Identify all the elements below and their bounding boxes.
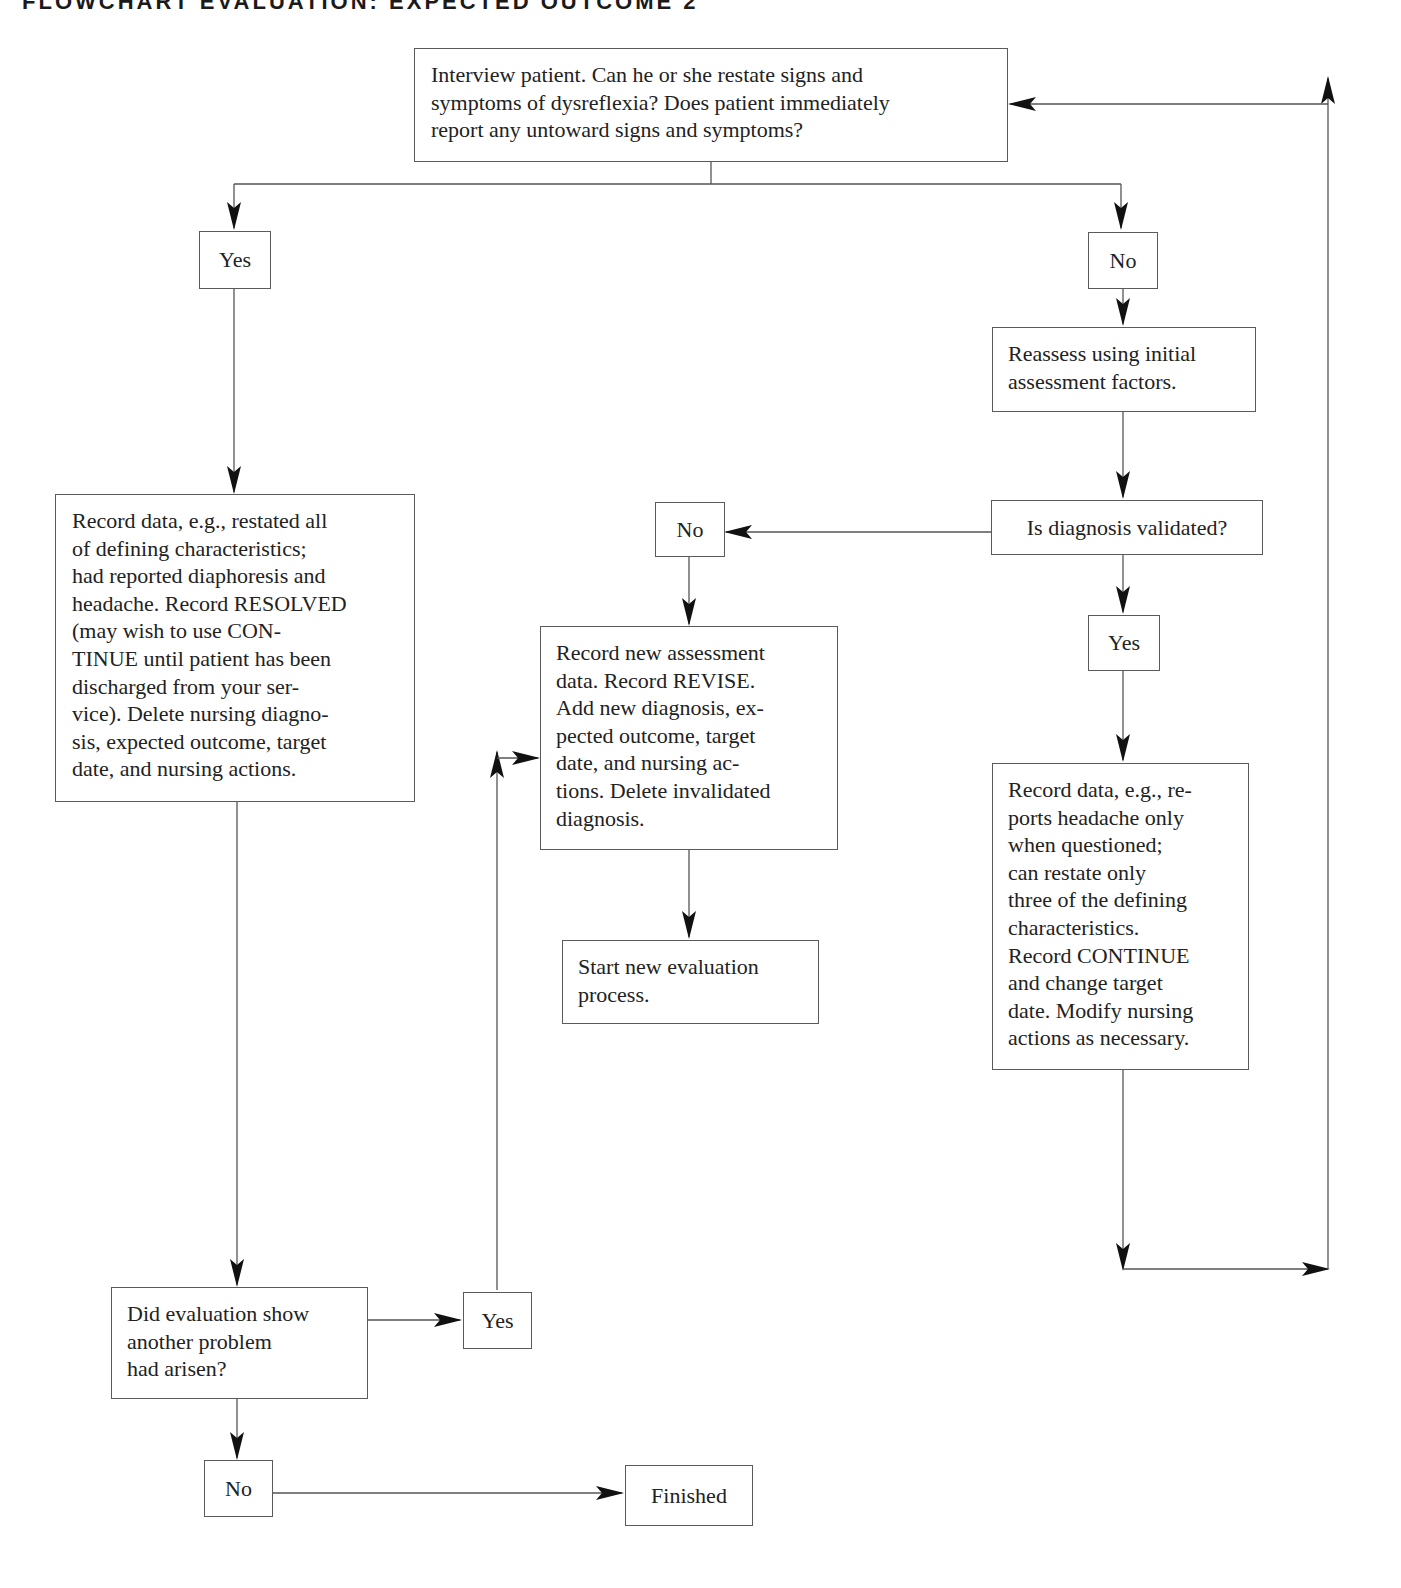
finished-node: Finished <box>625 1465 753 1526</box>
validated-yes-node: Yes <box>1088 615 1160 671</box>
not-validated-node: No <box>655 502 725 557</box>
record-revise-node: Record new assessment data. Record REVIS… <box>540 626 838 850</box>
another-problem-decision: Did evaluation show another problem had … <box>111 1287 368 1399</box>
record-continue-node: Record data, e.g., re- ports headache on… <box>992 763 1249 1070</box>
record-resolved-node: Record data, e.g., restated all of defin… <box>55 494 415 802</box>
interview-patient-node: Interview patient. Can he or she restate… <box>414 48 1008 162</box>
diagnosis-validated-decision: Is diagnosis validated? <box>991 500 1263 555</box>
another-problem-yes-node: Yes <box>463 1292 532 1349</box>
another-problem-no-node: No <box>204 1460 273 1517</box>
yes-branch-node: Yes <box>199 231 271 289</box>
start-new-evaluation-node: Start new evaluation process. <box>562 940 819 1024</box>
reassess-node: Reassess using initial assessment factor… <box>992 327 1256 412</box>
no-branch-node: No <box>1088 232 1158 289</box>
